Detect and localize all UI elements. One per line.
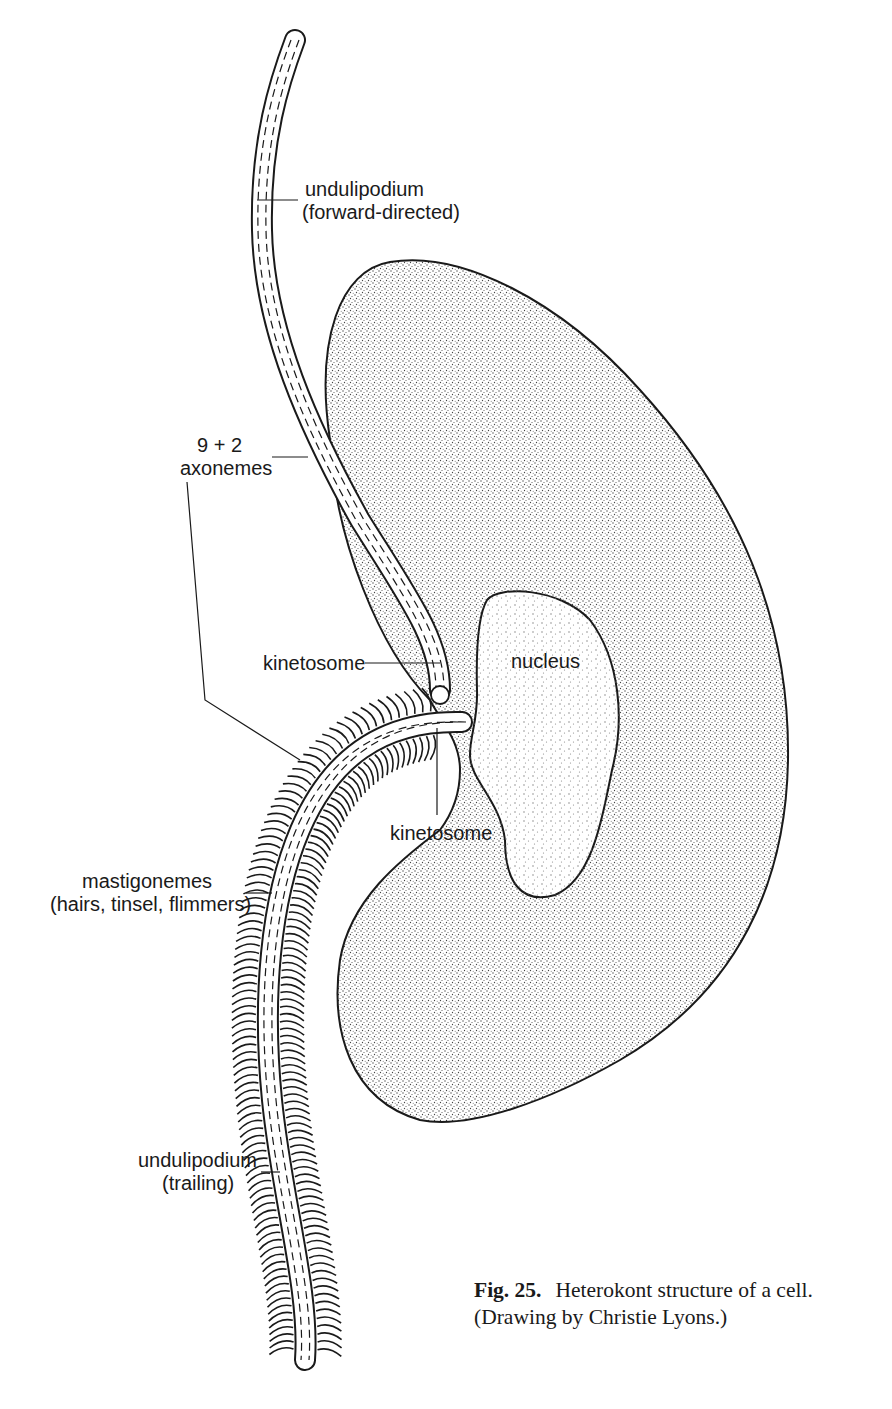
mastigoneme-hair [313,1278,338,1283]
mastigoneme-hair [303,1218,328,1222]
mastigoneme-hair [281,1065,305,1071]
mastigoneme-hair [316,1309,340,1315]
label-axonemes: axonemes [180,457,272,479]
mastigoneme-hair [290,1145,315,1150]
mastigoneme-hair [280,1043,304,1050]
mastigoneme-hair [289,1138,314,1143]
mastigoneme-hair [307,1241,332,1245]
mastigoneme-hair [232,1036,256,1044]
mastigoneme-hair [232,1006,256,1013]
mastigoneme-hair [291,1152,316,1157]
mastigoneme-hair [247,875,272,878]
mastigoneme-hair [285,1108,310,1113]
mastigoneme-hair [256,844,281,848]
mastigoneme-hair [280,1006,304,1013]
mastigoneme-hair [261,829,286,834]
mastigoneme-hair [280,1036,304,1043]
mastigoneme-hair [315,1301,339,1306]
mastigoneme-hair [395,694,407,716]
mastigoneme-hair [413,739,416,764]
mastigoneme-hair [232,1021,256,1028]
mastigoneme-hair [337,722,356,738]
mastigoneme-hair [315,1294,340,1299]
mastigoneme-hair [270,1341,294,1348]
mastigoneme-hair [281,1057,305,1063]
mastigoneme-hair [258,836,283,841]
mastigoneme-hair [253,852,278,856]
mastigoneme-hair [310,1263,335,1268]
heterokont-cell-diagram: undulipodium (forward-directed) 9 + 2 ax… [0,0,892,1409]
figure-caption: Fig. 25.Heterokont structure of a cell. … [474,1277,892,1331]
mastigoneme-hair [280,1014,304,1021]
mastigoneme-hair [280,1028,304,1035]
mastigoneme-hair [317,1317,341,1323]
mastigoneme-hair [281,1050,305,1056]
mastigoneme-hair [353,712,370,730]
mastigoneme-hair [300,1203,325,1207]
mastigoneme-hair [387,697,400,718]
mastigoneme-hair [299,1196,324,1200]
mastigoneme-hair [406,741,410,766]
mastigoneme-hair [424,736,429,761]
mastigoneme-hair [314,1286,339,1291]
mastigoneme-hair [236,936,261,941]
mastigoneme-hair [309,1255,334,1260]
mastigoneme-hair [329,728,348,743]
mastigoneme-hair [304,1226,329,1230]
mastigoneme-hair [249,867,274,871]
mastigoneme-hair [269,1348,293,1355]
label-forward-flagellum-sub: (forward-directed) [302,201,460,223]
label-axonemes-count: 9 + 2 [197,434,242,456]
mastigoneme-hair [264,821,288,826]
mastigoneme-hair [317,1325,341,1331]
mastigoneme-hair [322,734,342,748]
mastigoneme-hair [294,1167,319,1172]
leader-axonemes-trailing [187,482,300,760]
mastigoneme-hair [233,983,257,989]
label-nucleus: nucleus [511,650,580,672]
mastigoneme-hair [309,748,331,760]
mastigoneme-hair [288,1130,313,1135]
mastigoneme-hair [232,1029,256,1036]
mastigoneme-hair [345,717,363,734]
mastigoneme-hair [369,703,384,723]
label-kinetosome-lower: kinetosome [390,822,492,844]
mastigoneme-hair [308,1248,333,1252]
mastigoneme-hair [232,1013,256,1020]
mastigoneme-hair [430,735,435,760]
mastigoneme-hair [234,959,258,965]
mastigoneme-hair [284,1101,309,1106]
mastigoneme-hair [303,754,325,765]
caption-text: Heterokont structure of a cell. [555,1278,812,1302]
mastigoneme-hair [280,1021,304,1028]
mastigoneme-hair [235,952,260,958]
caption-line-1: Fig. 25.Heterokont structure of a cell. [474,1277,892,1304]
mastigoneme-hair [284,1094,308,1100]
mastigoneme-hair [297,1189,322,1193]
mastigoneme-hair [292,1159,317,1164]
mastigoneme-hair [233,967,257,973]
label-kinetosome-upper: kinetosome [263,652,365,674]
mastigoneme-hair [267,813,291,819]
mastigoneme-hair [233,1044,257,1052]
label-trailing-flagellum-sub: (trailing) [162,1172,234,1194]
mastigoneme-hair [275,798,299,805]
label-mastigonemes-sub: (hairs, tinsel, flimmers) [50,893,251,915]
mastigoneme-hair [286,1116,311,1121]
mastigoneme-hair [301,1211,326,1215]
mastigoneme-hair [305,1233,330,1237]
mastigoneme-hair [245,882,270,886]
mastigoneme-hair [233,1052,257,1060]
mastigoneme-hair [312,1271,337,1276]
label-mastigonemes: mastigonemes [82,870,212,892]
mastigoneme-hair [378,700,392,721]
mastigoneme-hair [249,1180,272,1190]
mastigoneme-hair [270,1334,294,1342]
label-forward-flagellum: undulipodium [305,178,424,200]
mastigoneme-hair [287,1123,312,1128]
kinetosome-upper-basal-body [431,686,449,704]
mastigoneme-hair [400,743,405,768]
figure-number: Fig. 25. [474,1278,541,1302]
mastigoneme-hair [280,992,304,1000]
mastigoneme-hair [296,1181,321,1185]
